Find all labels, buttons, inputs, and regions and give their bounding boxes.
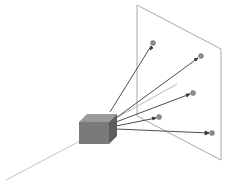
- cube: [79, 114, 117, 144]
- ray-2: [116, 58, 198, 118]
- arrowhead-icon: [152, 117, 156, 120]
- axis-line: [6, 141, 80, 180]
- gray-ray: [116, 84, 177, 118]
- target-dot-5: [210, 131, 215, 136]
- target-dot-2: [199, 54, 204, 59]
- ray-4: [116, 118, 156, 126]
- target-dots: [151, 41, 215, 136]
- rays: [110, 46, 209, 135]
- diagram-canvas: [0, 0, 231, 186]
- arrowhead-icon: [205, 131, 209, 135]
- arrowhead-icon: [186, 94, 190, 97]
- arrowhead-icon: [150, 46, 153, 50]
- projection-plane: [137, 5, 221, 160]
- cube-front-face: [79, 122, 109, 144]
- target-dot-3: [191, 91, 196, 96]
- target-dot-1: [151, 41, 156, 46]
- diagram-stage: [0, 0, 231, 186]
- target-dot-4: [157, 115, 162, 120]
